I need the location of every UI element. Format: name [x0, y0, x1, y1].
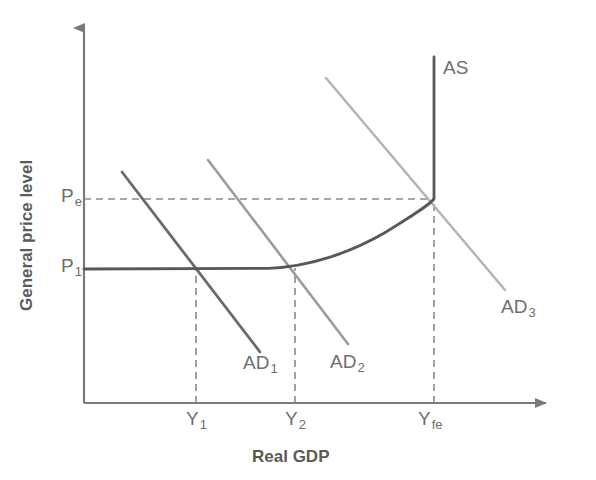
aggregate-supply-curve-group — [84, 57, 434, 269]
chart-canvas — [0, 0, 596, 480]
x-tick-label-y2: Y2 — [285, 409, 305, 428]
y-axis-title: General price level — [18, 160, 35, 311]
ad2-curve — [208, 160, 348, 344]
y-tick-label-p1: P1 — [61, 256, 81, 275]
x-tick-label-y1: Y1 — [186, 409, 206, 428]
curve-label-ad1: AD1 — [243, 353, 277, 372]
y-tick-label-pe: Pe — [61, 186, 81, 205]
ad-as-diagram: AS AD3 AD2 AD1 Pe P1 Y1 Y2 Yfe Real GDP … — [0, 0, 596, 480]
aggregate-demand-curves-group — [122, 78, 505, 352]
x-tick-label-yfe: Yfe — [418, 409, 442, 428]
curve-label-ad3: AD3 — [501, 297, 535, 316]
curve-label-as: AS — [443, 58, 468, 77]
as-curve — [84, 57, 434, 269]
curve-label-ad2: AD2 — [330, 352, 364, 371]
ad3-curve — [326, 78, 505, 290]
x-axis-title: Real GDP — [252, 448, 329, 465]
axes-group — [84, 28, 546, 403]
